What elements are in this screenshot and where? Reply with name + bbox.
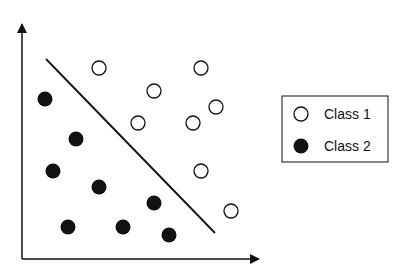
class-2-point (116, 220, 131, 235)
class-1-point (194, 61, 208, 75)
class-1-point (194, 164, 208, 178)
legend-label-class-2: Class 2 (324, 138, 371, 154)
legend-filled-circle-icon (294, 139, 309, 154)
class-2-point (147, 196, 162, 211)
data-points (38, 61, 239, 243)
class-2-point (61, 220, 76, 235)
class-2-point (38, 92, 53, 107)
class-2-point (92, 180, 107, 195)
legend: Class 1 Class 2 (282, 96, 388, 162)
class-1-point (186, 116, 200, 130)
class-2-point (69, 132, 84, 147)
decision-boundary-line (46, 59, 215, 233)
legend-open-circle-icon (294, 107, 308, 121)
class-1-point (92, 61, 106, 75)
legend-label-class-1: Class 1 (324, 106, 371, 122)
class-1-point (224, 204, 238, 218)
class-1-point (209, 100, 223, 114)
classification-diagram: Class 1 Class 2 (0, 0, 405, 279)
class-1-point (147, 84, 161, 98)
class-2-point (162, 228, 177, 243)
class-2-point (46, 164, 61, 179)
class-1-point (131, 116, 145, 130)
